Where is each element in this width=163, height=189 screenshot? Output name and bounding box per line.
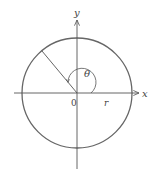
y-axis-label: y: [73, 7, 80, 18]
radius-line: [42, 51, 77, 93]
polar-diagram: y x θ 0 r: [0, 0, 163, 189]
angle-label: θ: [84, 68, 90, 79]
radius-label: r: [104, 98, 109, 108]
angle-arc: [68, 68, 96, 93]
x-axis-label: x: [142, 88, 148, 99]
origin-label: 0: [71, 98, 77, 108]
